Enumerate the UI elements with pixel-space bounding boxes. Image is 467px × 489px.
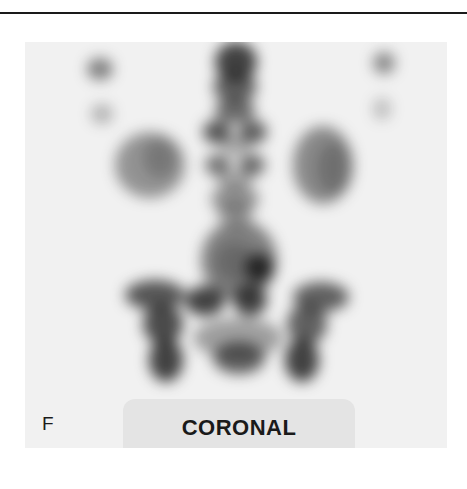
view-label-box: CORONAL xyxy=(123,399,355,448)
scintigraphy-image xyxy=(25,42,447,448)
top-divider-rule xyxy=(0,12,467,14)
scan-image-panel xyxy=(25,42,447,448)
view-label-text: CORONAL xyxy=(123,415,355,441)
panel-letter: F xyxy=(42,413,54,435)
